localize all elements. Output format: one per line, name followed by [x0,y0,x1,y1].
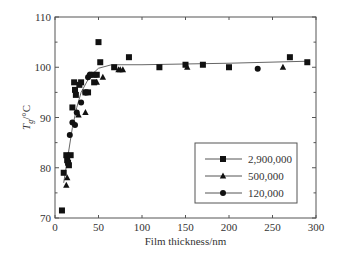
data-point-square [287,54,293,60]
x-axis-label: Film thickness/nm [145,235,227,247]
data-point-triangle [100,74,106,80]
data-point-square [111,64,117,70]
data-point-circle [82,89,88,95]
data-point-circle [93,72,99,78]
data-point-square [69,104,75,110]
legend-marker-circle [220,190,226,196]
chart: 050100150200250300708090100110Film thick… [0,0,338,256]
legend-label: 120,000 [248,187,284,199]
y-tick-label: 110 [35,11,52,23]
x-tick-label: 50 [93,221,105,233]
y-tick-label: 80 [40,162,52,174]
y-axis-label: Tg/°C [20,105,35,130]
data-point-circle [78,99,84,105]
data-point-square [59,207,65,213]
data-point-square [73,92,79,98]
data-point-square [66,162,72,168]
data-point-square [97,59,103,65]
x-tick-label: 0 [52,221,58,233]
x-tick-label: 100 [134,221,151,233]
legend-marker-square [220,156,226,162]
data-point-square [61,170,67,176]
data-point-square [71,79,77,85]
data-point-square [156,64,162,70]
y-tick-label: 100 [35,61,52,73]
data-point-circle [255,66,261,72]
data-point-square [226,64,232,70]
x-tick-label: 200 [221,221,238,233]
data-point-square [96,39,102,45]
data-point-circle [67,132,73,138]
data-point-square [68,152,74,158]
y-tick-label: 70 [40,212,52,224]
y-tick-label: 90 [40,112,52,124]
data-point-triangle [82,109,88,115]
data-point-square [200,62,206,68]
data-point-square [304,59,310,65]
data-point-square [78,79,84,85]
data-point-circle [74,109,80,115]
data-point-triangle [280,64,286,70]
legend-label: 2,900,000 [248,153,293,165]
data-point-circle [72,122,78,128]
legend-label: 500,000 [248,170,284,182]
x-tick-label: 150 [177,221,194,233]
x-tick-label: 300 [308,221,325,233]
data-point-square [126,54,132,60]
x-tick-label: 250 [264,221,281,233]
